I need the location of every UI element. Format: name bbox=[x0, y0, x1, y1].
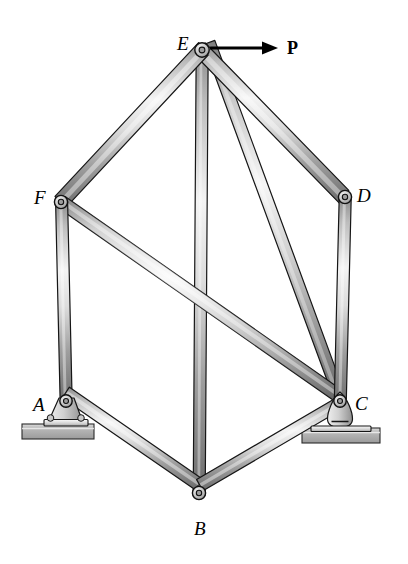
force-label-p: P bbox=[287, 39, 298, 57]
joint-label-b: B bbox=[194, 519, 206, 538]
truss-figure: A B C D E F P bbox=[0, 0, 408, 564]
joint-label-c: C bbox=[355, 394, 368, 413]
member-B-C bbox=[197, 399, 340, 490]
joint-pin-F bbox=[54, 195, 67, 208]
load-arrow-p bbox=[210, 42, 278, 55]
joint-pin-C bbox=[334, 395, 346, 407]
member-F-A bbox=[56, 202, 73, 404]
member-E-F bbox=[55, 43, 208, 209]
member-E-D bbox=[196, 43, 349, 203]
joint-label-a: A bbox=[33, 395, 45, 414]
member-E-B bbox=[193, 50, 208, 495]
joint-pin-E bbox=[195, 43, 209, 57]
truss-drawing bbox=[0, 0, 408, 564]
joint-pin-A bbox=[60, 395, 72, 407]
member-D-C bbox=[334, 198, 351, 406]
joint-pin-D bbox=[338, 190, 351, 203]
joint-label-f: F bbox=[34, 188, 46, 207]
joint-label-e: E bbox=[177, 34, 189, 53]
joint-pin-B bbox=[192, 486, 205, 499]
joint-label-d: D bbox=[357, 186, 371, 205]
